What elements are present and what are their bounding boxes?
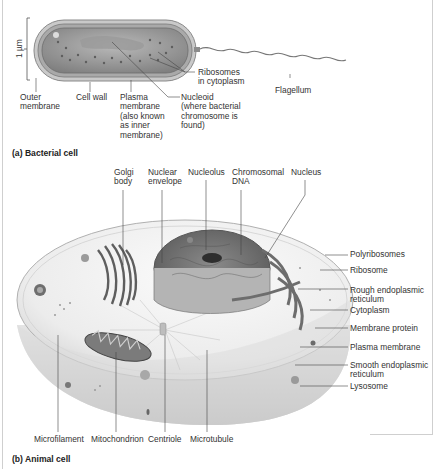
label-membrane-protein: Membrane protein bbox=[350, 324, 418, 333]
label-outer-membrane: Outer membrane bbox=[20, 93, 60, 112]
label-ribosome: Ribosome bbox=[350, 266, 388, 275]
label-smooth-er: Smooth endoplasmic reticulum bbox=[350, 361, 428, 380]
label-nuclear-envelope: Nuclear envelope bbox=[148, 168, 182, 187]
label-plasma-membrane-bacterial: Plasma membrane (also known as inner mem… bbox=[120, 93, 165, 140]
label-mitochondrion: Mitochondrion bbox=[91, 435, 144, 444]
label-nucleus: Nucleus bbox=[291, 168, 321, 177]
label-lysosome: Lysosome bbox=[350, 382, 388, 391]
label-microtubule: Microtubule bbox=[190, 435, 233, 444]
caption-animal-cell: (b) Animal cell bbox=[12, 454, 70, 464]
label-plasma-membrane-animal: Plasma membrane bbox=[350, 343, 420, 352]
label-polyribosomes: Polyribosomes bbox=[350, 250, 405, 259]
scale-bar-label: 1 µm bbox=[14, 39, 24, 58]
label-cytoplasm: Cytoplasm bbox=[350, 306, 390, 315]
caption-bacterial-cell: (a) Bacterial cell bbox=[12, 148, 78, 158]
label-ribosomes: Ribosomes in cytoplasm bbox=[198, 68, 245, 87]
label-nucleoid: Nucleoid (where bacterial chromosome is … bbox=[181, 93, 241, 131]
label-centriole: Centriole bbox=[148, 435, 182, 444]
label-flagellum: Flagellum bbox=[275, 86, 311, 95]
label-rough-er: Rough endoplasmic reticulum bbox=[350, 286, 424, 305]
label-chromosomal-dna: Chromosomal DNA bbox=[232, 168, 284, 187]
label-nucleolus: Nucleolus bbox=[188, 168, 225, 177]
label-golgi-body: Golgi body bbox=[114, 168, 134, 187]
animal-cell-drawing bbox=[17, 180, 353, 432]
label-microfilament: Microfilament bbox=[34, 435, 84, 444]
label-cell-wall: Cell wall bbox=[76, 93, 107, 102]
